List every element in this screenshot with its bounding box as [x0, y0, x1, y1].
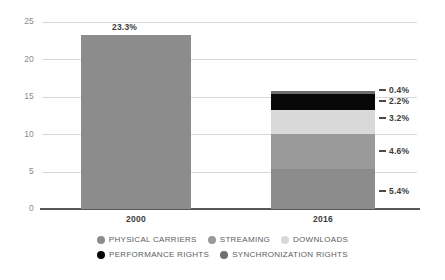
legend-item-synchronization-rights[interactable]: SYNCHRONIZATION RIGHTS — [220, 250, 348, 260]
callout-streaming: 4.6% — [379, 146, 409, 156]
bar-segment-synchronization-rights-2016[interactable] — [271, 91, 375, 94]
ytick-label-25: 25 — [8, 17, 34, 26]
callout-performance-rights: 2.2% — [379, 96, 409, 106]
bar-segment-physical-carriers-2016[interactable] — [271, 169, 375, 209]
callout-label-performance: 2.2% — [389, 96, 409, 106]
legend-label-synchronization-rights: SYNCHRONIZATION RIGHTS — [232, 250, 348, 260]
legend-label-performance-rights: PERFORMANCE RIGHTS — [109, 250, 209, 260]
callout-synchronization-rights: 0.4% — [379, 85, 409, 95]
ytick-label-20: 20 — [8, 55, 34, 64]
bar-segment-physical-carriers-2000[interactable] — [81, 35, 191, 209]
legend-swatch-icon — [220, 251, 228, 259]
bar-segment-streaming-2016[interactable] — [271, 134, 375, 168]
legend-swatch-icon — [281, 236, 289, 244]
chart-legend: PHYSICAL CARRIERS STREAMING DOWNLOADS PE… — [0, 232, 445, 262]
bar-2016[interactable] — [271, 91, 375, 209]
legend-label-streaming: STREAMING — [220, 235, 270, 245]
legend-item-physical-carriers[interactable]: PHYSICAL CARRIERS — [97, 235, 197, 245]
ytick-label-15: 15 — [8, 92, 34, 101]
legend-swatch-icon — [208, 236, 216, 244]
legend-item-performance-rights[interactable]: PERFORMANCE RIGHTS — [97, 250, 209, 260]
callout-dash-icon — [379, 117, 386, 119]
legend-swatch-icon — [97, 251, 105, 259]
bar-segment-downloads-2016[interactable] — [271, 110, 375, 134]
bar-value-2000: 23.3% — [112, 22, 137, 32]
callout-dash-icon — [379, 150, 386, 152]
legend-row-2: PERFORMANCE RIGHTS SYNCHRONIZATION RIGHT… — [0, 247, 445, 262]
bar-2000[interactable] — [81, 35, 191, 209]
ytick-label-0: 0 — [8, 204, 34, 213]
ytick-label-10: 10 — [8, 130, 34, 139]
legend-row-1: PHYSICAL CARRIERS STREAMING DOWNLOADS — [0, 232, 445, 247]
callout-dash-icon — [379, 190, 386, 192]
callout-label-sync: 0.4% — [389, 85, 409, 95]
legend-swatch-icon — [97, 236, 105, 244]
xaxis-label-2016: 2016 — [271, 214, 375, 224]
legend-item-downloads[interactable]: DOWNLOADS — [281, 235, 348, 245]
callout-physical-carriers: 5.4% — [379, 186, 409, 196]
plot-area: 25 20 15 10 5 0 23.3% — [0, 0, 445, 230]
legend-item-streaming[interactable]: STREAMING — [208, 235, 270, 245]
legend-label-downloads: DOWNLOADS — [293, 235, 348, 245]
callout-downloads: 3.2% — [379, 113, 409, 123]
ytick-label-5: 5 — [8, 167, 34, 176]
callout-dash-icon — [379, 89, 386, 91]
stacked-bar-chart: 25 20 15 10 5 0 23.3% — [0, 0, 445, 280]
gridline-25 — [42, 22, 417, 23]
bar-segment-performance-rights-2016[interactable] — [271, 94, 375, 111]
callout-label-physical: 5.4% — [389, 186, 409, 196]
xaxis-label-2000: 2000 — [81, 214, 191, 224]
callout-dash-icon — [379, 100, 386, 102]
callout-label-streaming: 4.6% — [389, 146, 409, 156]
callout-label-downloads: 3.2% — [389, 113, 409, 123]
legend-label-physical-carriers: PHYSICAL CARRIERS — [109, 235, 197, 245]
